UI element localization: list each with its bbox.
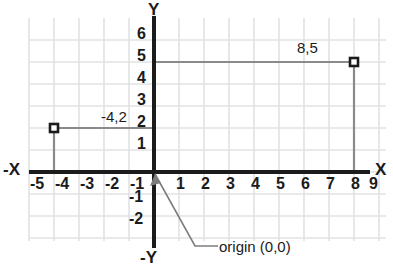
x-axis-label: X: [375, 161, 386, 178]
y-axis-label: Y: [148, 1, 159, 18]
neg-y-axis-label: -Y: [140, 249, 157, 266]
x-tick-label-neg1: -1: [130, 176, 144, 192]
x-tick-label-3: 3: [226, 176, 235, 192]
x-tick-label-7: 7: [326, 176, 335, 192]
x-tick-label-neg4: -4: [55, 176, 69, 192]
point-label-neg4-2: -4,2: [101, 109, 127, 124]
chart-background: [0, 0, 393, 277]
x-tick-label-6: 6: [301, 176, 310, 192]
x-tick-label-5: 5: [276, 176, 285, 192]
data-point-marker: [50, 124, 58, 132]
x-tick-label-2: 2: [201, 176, 210, 192]
x-tick-label-neg5: -5: [30, 176, 44, 192]
x-tick-label-4: 4: [251, 176, 260, 192]
neg-x-axis-label: -X: [3, 161, 20, 178]
y-tick-label-3: 3: [137, 92, 146, 108]
x-tick-label-neg3: -3: [80, 176, 94, 192]
data-point-marker: [350, 58, 358, 66]
x-tick-label-1: 1: [176, 176, 185, 192]
x-tick-label-neg2: -2: [105, 176, 119, 192]
x-tick-label-8: 8: [351, 176, 360, 192]
coordinate-plane-chart: [0, 0, 393, 277]
y-tick-label-4: 4: [137, 70, 146, 86]
origin-annotation-label: origin (0,0): [219, 239, 291, 254]
point-label-8-5: 8,5: [297, 40, 318, 55]
y-tick-label-1: 1: [137, 136, 146, 152]
y-tick-label-neg2: -2: [129, 211, 143, 227]
y-tick-label-5: 5: [137, 48, 146, 64]
y-tick-label-2: 2: [137, 114, 146, 130]
y-tick-label-6: 6: [137, 26, 146, 42]
